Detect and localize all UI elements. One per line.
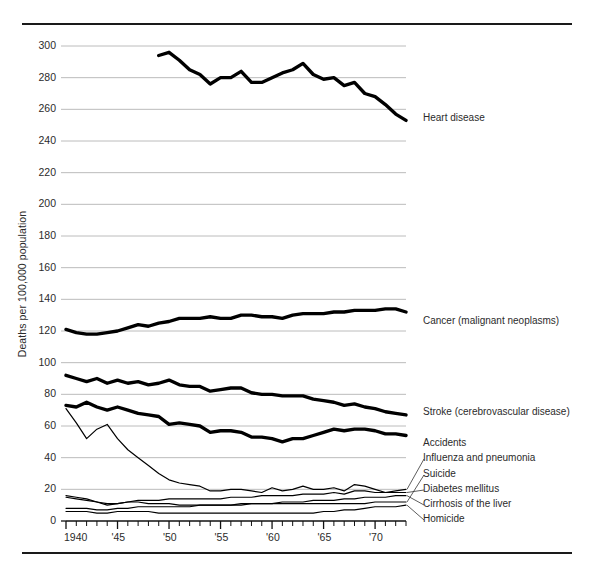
y-tick-label: 80 xyxy=(22,387,56,399)
y-tick-label: 60 xyxy=(22,419,56,431)
series-line xyxy=(66,402,406,442)
chart-canvas xyxy=(0,0,596,573)
y-tick-label: 40 xyxy=(22,451,56,463)
y-tick-label: 280 xyxy=(22,71,56,83)
x-tick-label: '65 xyxy=(318,531,332,543)
y-axis-label: Deaths per 100,000 population xyxy=(16,184,28,384)
series-label: Cirrhosis of the liver xyxy=(423,498,511,509)
x-tick-label: '70 xyxy=(369,531,383,543)
x-tick-label: '60 xyxy=(266,531,280,543)
series-line xyxy=(66,375,406,415)
series-label: Accidents xyxy=(423,437,466,448)
y-tick-label: 180 xyxy=(22,229,56,241)
y-tick-label: 240 xyxy=(22,134,56,146)
x-tick-label: '50 xyxy=(163,531,177,543)
series-lines xyxy=(66,52,406,513)
y-tick-label: 220 xyxy=(22,166,56,178)
y-tick-label: 120 xyxy=(22,324,56,336)
y-tick-label: 140 xyxy=(22,292,56,304)
y-tick-label: 160 xyxy=(22,261,56,273)
x-tick-label: '45 xyxy=(112,531,126,543)
x-axis xyxy=(61,46,406,529)
gridlines xyxy=(66,46,406,489)
x-tick-label: '55 xyxy=(215,531,229,543)
series-line xyxy=(66,409,406,493)
y-tick-label: 20 xyxy=(22,482,56,494)
series-label: Suicide xyxy=(423,468,456,479)
y-tick-label: 0 xyxy=(22,514,56,526)
y-tick-label: 100 xyxy=(22,356,56,368)
series-label: Diabetes mellitus xyxy=(423,483,499,494)
series-line xyxy=(66,505,406,513)
y-tick-label: 300 xyxy=(22,39,56,51)
x-tick-label: 1940 xyxy=(64,531,87,543)
series-line xyxy=(66,309,406,334)
y-tick-label: 260 xyxy=(22,102,56,114)
series-line xyxy=(159,52,406,120)
line-chart: Deaths per 100,000 population 0204060801… xyxy=(0,0,596,573)
series-line xyxy=(66,491,406,504)
series-label: Stroke (cerebrovascular disease) xyxy=(423,406,570,417)
series-label: Homicide xyxy=(423,513,465,524)
series-label: Cancer (malignant neoplasms) xyxy=(423,315,559,326)
figure-page: Deaths per 100,000 population 0204060801… xyxy=(0,0,596,573)
series-label: Heart disease xyxy=(423,112,485,123)
y-tick-label: 200 xyxy=(22,197,56,209)
series-label: Influenza and pneumonia xyxy=(423,452,535,463)
label-leader-lines xyxy=(407,459,424,520)
